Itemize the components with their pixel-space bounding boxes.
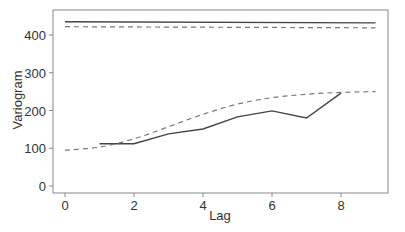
y-axis-label: Variogram — [10, 70, 25, 129]
series-line — [65, 27, 376, 28]
series-line — [65, 22, 376, 23]
y-tick-label: 0 — [39, 179, 46, 194]
series-line — [65, 92, 376, 151]
y-tick-label: 300 — [24, 66, 46, 81]
x-tick-label: 8 — [337, 198, 344, 213]
plot-series — [65, 22, 376, 150]
plot-frame — [53, 10, 388, 193]
variogram-chart: 024680100200300400 Lag Variogram — [0, 0, 405, 232]
plot-axes: 024680100200300400 — [24, 10, 388, 213]
series-line — [100, 93, 342, 144]
x-tick-label: 4 — [199, 198, 206, 213]
x-tick-label: 2 — [130, 198, 137, 213]
x-tick-label: 0 — [61, 198, 68, 213]
x-axis-label: Lag — [209, 208, 231, 223]
x-tick-label: 6 — [268, 198, 275, 213]
y-tick-label: 200 — [24, 104, 46, 119]
y-tick-label: 100 — [24, 141, 46, 156]
y-tick-label: 400 — [24, 28, 46, 43]
